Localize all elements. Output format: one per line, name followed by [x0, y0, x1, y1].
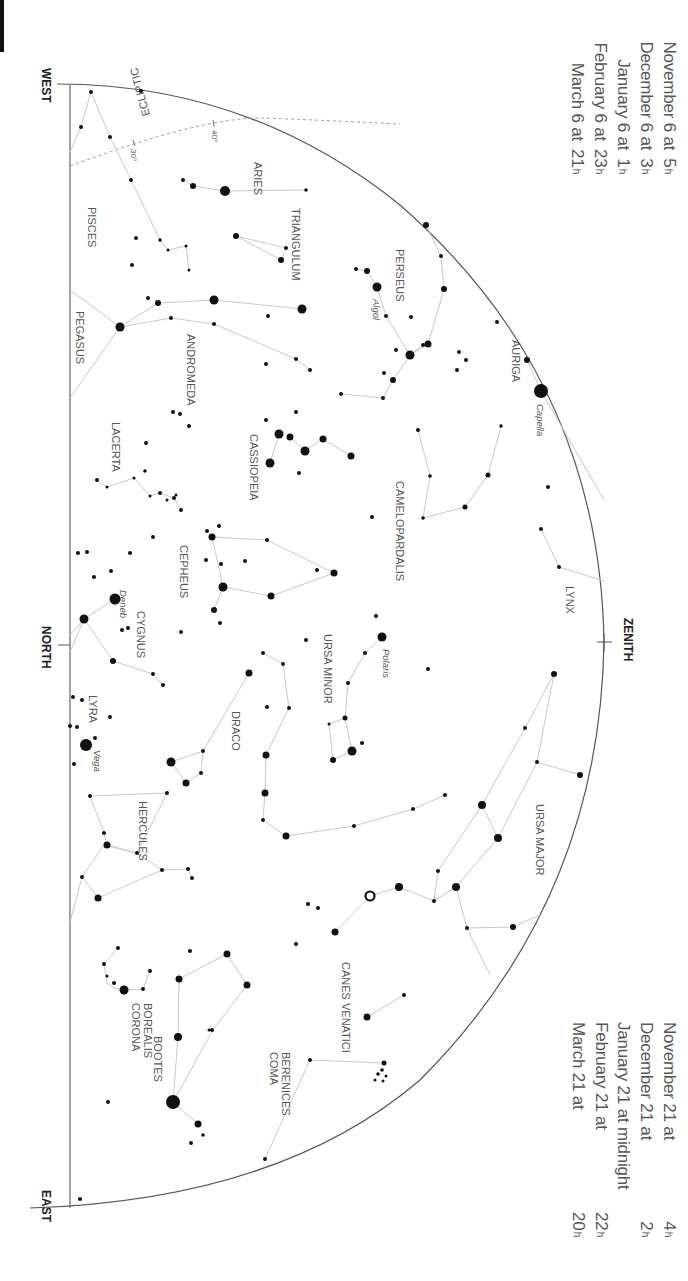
star — [167, 758, 176, 767]
date-label: December 6 at — [634, 41, 657, 150]
star — [411, 807, 415, 811]
star — [104, 842, 111, 849]
star — [158, 491, 162, 495]
star — [494, 834, 502, 842]
star — [80, 698, 84, 702]
star — [281, 662, 285, 666]
star — [328, 723, 331, 726]
star — [423, 222, 429, 228]
constellation-label-lynx: LYNX — [564, 586, 576, 615]
star — [373, 283, 382, 292]
star — [95, 478, 99, 482]
date-bottom-line: March 21 at20h — [566, 1022, 589, 1237]
star — [455, 368, 459, 372]
star — [441, 286, 447, 292]
star — [486, 473, 491, 478]
star — [265, 705, 269, 709]
star — [263, 752, 270, 759]
star — [76, 551, 80, 555]
zenith-arc — [30, 84, 604, 1208]
star — [382, 1061, 387, 1066]
star — [304, 638, 308, 642]
star — [209, 534, 216, 541]
star — [72, 762, 76, 766]
star — [304, 188, 308, 192]
star — [79, 125, 83, 129]
star — [233, 233, 239, 239]
star — [169, 316, 173, 320]
star — [146, 296, 150, 300]
star — [266, 314, 270, 318]
star — [106, 486, 109, 489]
hour-value: 2h — [634, 1221, 657, 1237]
star — [75, 725, 79, 729]
star — [308, 1058, 312, 1062]
star — [370, 515, 374, 519]
star — [165, 791, 169, 795]
star — [178, 412, 182, 416]
star — [151, 672, 155, 676]
date-label: March 21 at — [566, 1022, 589, 1110]
star — [243, 559, 247, 563]
star — [175, 494, 178, 497]
star — [179, 508, 183, 512]
star — [188, 269, 191, 272]
star — [139, 89, 143, 93]
star — [363, 651, 367, 655]
hour-value: 4h — [657, 1221, 680, 1237]
hour-value: 21h — [565, 149, 588, 174]
star — [409, 315, 413, 319]
star — [395, 883, 403, 891]
star — [130, 263, 134, 267]
star — [510, 924, 516, 930]
star — [546, 485, 550, 489]
star — [188, 949, 192, 953]
star-label-deneb: Deneb — [118, 590, 129, 618]
star — [183, 780, 190, 787]
date-bottom-line: December 21 at2h — [634, 1022, 657, 1237]
star — [187, 424, 191, 428]
star — [120, 628, 124, 632]
star — [172, 496, 176, 500]
star — [425, 341, 432, 348]
date-bottom-line: February 21 at22h — [589, 1022, 612, 1237]
star — [109, 569, 113, 573]
star — [219, 562, 223, 566]
star — [116, 323, 125, 332]
constellation-label-pegasus: PEGASUS — [74, 311, 86, 364]
star — [523, 726, 527, 730]
star — [218, 621, 222, 625]
star — [208, 1029, 211, 1032]
star — [360, 741, 364, 745]
star — [381, 396, 385, 400]
star — [167, 249, 170, 252]
star — [186, 867, 190, 871]
star — [201, 749, 205, 753]
constellation-label-aries: ARIES — [252, 162, 264, 195]
star — [181, 178, 185, 182]
star — [176, 976, 183, 983]
star — [384, 314, 388, 318]
constellation-label-ursa-minor: URSA MINOR — [322, 634, 334, 704]
star — [201, 1133, 205, 1137]
star — [220, 186, 230, 196]
constellation-label-coma-berenices: COMABERENICES — [268, 1052, 292, 1116]
star — [316, 906, 320, 910]
star — [385, 1075, 388, 1078]
star — [219, 583, 228, 592]
star — [378, 633, 387, 642]
star — [112, 981, 116, 985]
star — [93, 736, 97, 740]
date-bottom-line: January 21 at midnight — [612, 1022, 634, 1237]
star — [534, 384, 548, 398]
hour-value: 5h — [657, 158, 680, 174]
star — [402, 993, 406, 997]
star — [346, 681, 350, 685]
star-label-capella: Capella — [535, 404, 546, 436]
star — [457, 350, 461, 354]
star — [261, 818, 265, 822]
star — [283, 833, 290, 840]
star — [80, 875, 84, 879]
star — [390, 377, 396, 383]
star — [166, 1095, 180, 1109]
